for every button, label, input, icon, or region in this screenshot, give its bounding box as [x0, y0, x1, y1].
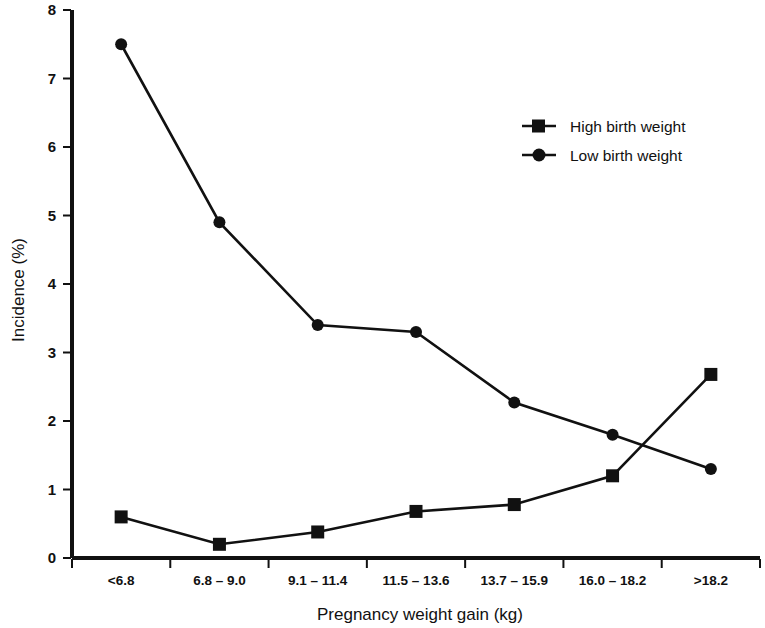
y-tick-label: 0: [48, 549, 56, 566]
y-tick-label: 7: [48, 70, 56, 87]
y-tick-label: 1: [48, 481, 56, 498]
y-axis-title: Incidence (%): [9, 238, 28, 342]
y-tick-label: 5: [48, 207, 56, 224]
x-category-label: 13.7 – 15.9: [481, 573, 549, 588]
data-point-circle-marker: [705, 463, 717, 475]
y-tick-label: 2: [48, 412, 56, 429]
x-category-label: 11.5 – 13.6: [383, 573, 450, 588]
x-axis-title: Pregnancy weight gain (kg): [317, 605, 523, 624]
x-category-label: 16.0 – 18.2: [579, 573, 647, 588]
chart-background: [0, 0, 765, 628]
data-point-square-marker: [704, 368, 717, 381]
incidence-line-chart: 012345678 <6.86.8 – 9.09.1 – 11.411.5 – …: [0, 0, 765, 628]
data-point-circle-marker: [410, 326, 422, 338]
y-tick-label: 6: [48, 138, 56, 155]
data-point-circle-marker: [115, 38, 127, 50]
data-point-circle-marker: [312, 319, 324, 331]
y-tick-label: 8: [48, 1, 56, 18]
data-point-square-marker: [410, 505, 423, 518]
legend-marker-square-icon: [532, 120, 545, 133]
data-point-square-marker: [115, 510, 128, 523]
legend-label-high: High birth weight: [570, 118, 686, 135]
data-point-circle-marker: [508, 397, 520, 409]
data-point-square-marker: [606, 469, 619, 482]
x-category-label: 9.1 – 11.4: [288, 573, 348, 588]
legend-label-low: Low birth weight: [570, 147, 683, 164]
x-axis-tick-labels: <6.86.8 – 9.09.1 – 11.411.5 – 13.613.7 –…: [108, 573, 728, 588]
y-tick-label: 4: [48, 275, 57, 292]
x-category-label: >18.2: [694, 573, 728, 588]
x-category-label: 6.8 – 9.0: [193, 573, 246, 588]
data-point-circle-marker: [213, 216, 225, 228]
data-point-circle-marker: [607, 429, 619, 441]
legend-marker-circle-icon: [533, 149, 546, 162]
chart-figure: 012345678 <6.86.8 – 9.09.1 – 11.411.5 – …: [0, 0, 765, 628]
y-axis-tick-labels: 012345678: [48, 1, 57, 566]
data-point-square-marker: [508, 498, 521, 511]
y-tick-label: 3: [48, 344, 56, 361]
x-category-label: <6.8: [108, 573, 135, 588]
data-point-square-marker: [213, 538, 226, 551]
data-point-square-marker: [311, 525, 324, 538]
